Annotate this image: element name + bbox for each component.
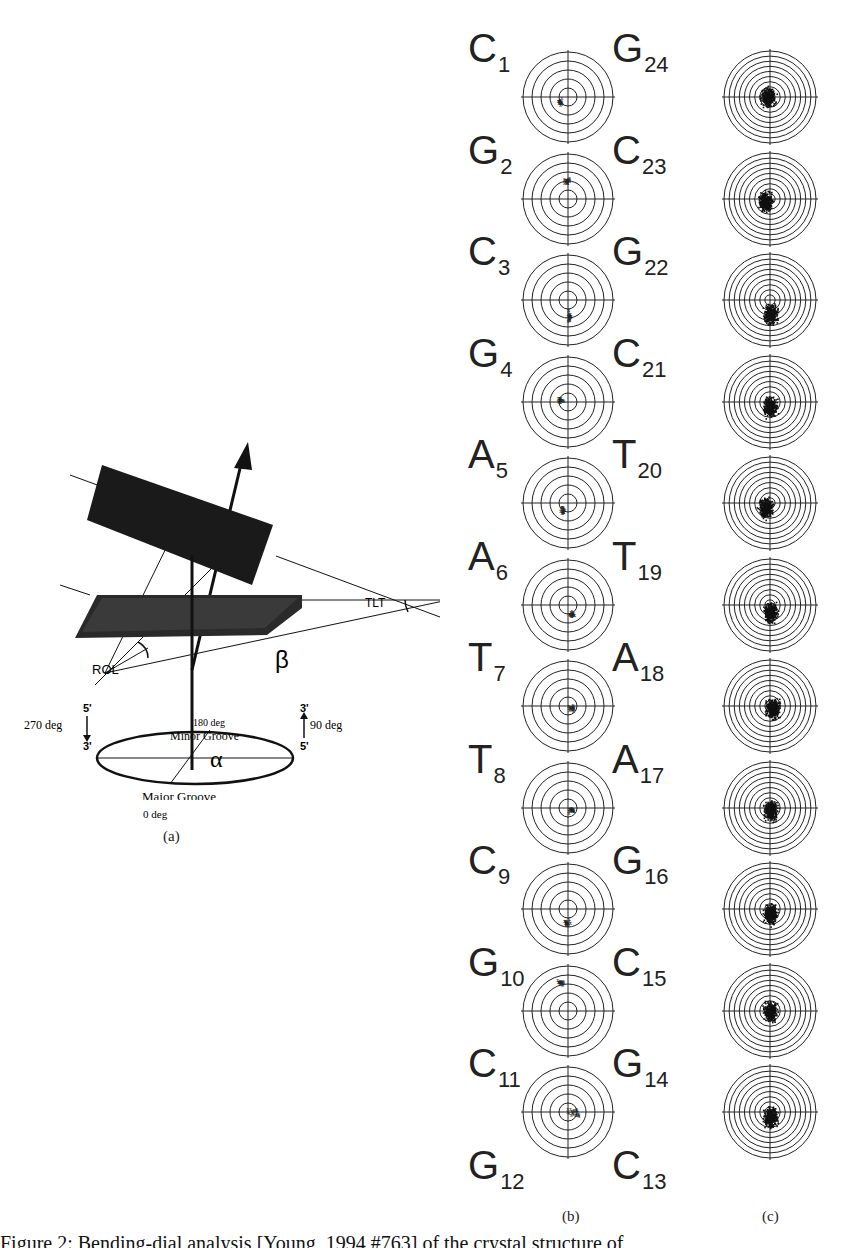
- left-top-end: 5': [83, 702, 92, 714]
- dial-c-10: [721, 962, 819, 1060]
- svg-text:x: x: [568, 705, 571, 711]
- panel-c-label: (c): [762, 1208, 779, 1225]
- dial-b-9: xxxxxxxxxxxxxxxxxxxxxx: [520, 861, 616, 957]
- dial-c-5: [721, 454, 819, 552]
- seq-label-right-G22: G22: [612, 231, 669, 279]
- svg-text:x: x: [569, 612, 572, 618]
- seq-label-left-G12: G12: [468, 1145, 525, 1193]
- dial-c-3: [721, 251, 819, 349]
- dial-c-4: [721, 353, 819, 451]
- svg-text:x: x: [559, 979, 562, 985]
- right-deg-label: 90 deg: [310, 718, 342, 732]
- dial-b-8: xxxxxxxxxxxxxxxxxxxxxx: [520, 760, 616, 856]
- dial-c-1: [721, 48, 819, 146]
- dial-c-7: [721, 657, 819, 755]
- dial-c-9: [721, 860, 819, 958]
- seq-label-right-T19: T19: [612, 536, 662, 584]
- dial-c-11: [721, 1063, 819, 1161]
- figure-caption: Figure 2: Bending-dial analysis [Young, …: [0, 1232, 850, 1248]
- dial-b-7: xxxxxxxxxxxxxxxxxxxxxx: [520, 658, 616, 754]
- dial-b-4: xxxxxxxxxxxxxxxxxxxxxx: [520, 354, 616, 450]
- dial-b-6: xxxxxxxxxxxxxxxxxxxxxx: [520, 557, 616, 653]
- svg-text:x: x: [573, 705, 576, 711]
- left-deg-label: 270 deg: [24, 718, 62, 732]
- seq-label-left-A6: A6: [468, 536, 508, 584]
- svg-text:x: x: [566, 1109, 569, 1115]
- panel-a-label: (a): [163, 828, 180, 845]
- right-top-end: 3': [300, 702, 309, 714]
- seq-label-left-C3: C3: [468, 231, 510, 279]
- svg-text:x: x: [562, 979, 565, 985]
- seq-label-left-G4: G4: [468, 333, 512, 381]
- left-bottom-end: 3': [83, 740, 92, 752]
- svg-text:x: x: [560, 504, 563, 510]
- dial-b-3: xxxxxxxxxxxxxxxxxxxxxx: [520, 252, 616, 348]
- seq-label-right-A18: A18: [612, 637, 664, 685]
- seq-label-left-C11: C11: [468, 1043, 521, 1091]
- seq-label-right-G16: G16: [612, 840, 669, 888]
- seq-label-right-T20: T20: [612, 434, 662, 482]
- dial-c-8: [721, 759, 819, 857]
- seq-label-right-C15: C15: [612, 942, 666, 990]
- seq-label-left-T8: T8: [468, 739, 506, 787]
- svg-text:x: x: [568, 176, 571, 182]
- svg-text:x: x: [571, 806, 574, 812]
- right-bottom-end: 5': [300, 740, 309, 752]
- dial-c-6: [721, 556, 819, 654]
- seq-label-right-G24: G24: [612, 28, 669, 76]
- svg-text:x: x: [565, 918, 568, 924]
- svg-text:x: x: [572, 1107, 575, 1113]
- dial-b-10: xxxxxxxxxxxxxxxxxxxxxx: [520, 963, 616, 1059]
- seq-label-left-T7: T7: [468, 637, 506, 685]
- seq-label-left-A5: A5: [468, 434, 508, 482]
- dial-b-1: xxxxxxxxxxxxxxxxxxxxxx: [520, 49, 616, 145]
- seq-label-right-C21: C21: [612, 333, 666, 381]
- svg-text:x: x: [577, 1111, 580, 1117]
- dial-b-5: xxxxxxxxxxxxxxxxxxxxxx: [520, 455, 616, 551]
- groove-extra-labels: 0 deg 270 deg 90 deg 5' 3' 3' 5': [0, 0, 440, 840]
- seq-label-left-G10: G10: [468, 942, 525, 990]
- svg-text:x: x: [563, 175, 566, 181]
- seq-label-right-A17: A17: [612, 739, 664, 787]
- svg-text:x: x: [559, 395, 562, 401]
- panel-b-label: (b): [562, 1208, 580, 1225]
- dial-b-2: xxxxxxxxxxxxxxxxxxxxxx: [520, 151, 616, 247]
- dial-c-2: [721, 150, 819, 248]
- seq-label-left-C9: C9: [468, 840, 510, 888]
- svg-text:x: x: [568, 315, 571, 321]
- major-groove-deg: 0 deg: [143, 808, 168, 820]
- seq-label-right-C13: C13: [612, 1145, 666, 1193]
- seq-label-right-G14: G14: [612, 1043, 669, 1091]
- svg-text:x: x: [559, 102, 562, 108]
- dial-b-11: xxxxxxxxxxxxxxxxxxxxxx: [520, 1064, 616, 1160]
- seq-label-left-C1: C1: [468, 28, 510, 76]
- seq-label-left-G2: G2: [468, 130, 512, 178]
- seq-label-right-C23: C23: [612, 130, 666, 178]
